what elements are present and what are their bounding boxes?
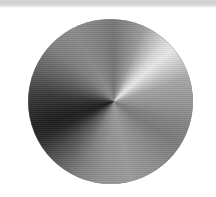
- image-canvas: [0, 0, 216, 197]
- disc-body: [28, 19, 193, 184]
- gradient-disc: [28, 19, 193, 184]
- top-band-hairline: [0, 2, 216, 3]
- disc-conic-gradient: [28, 19, 193, 184]
